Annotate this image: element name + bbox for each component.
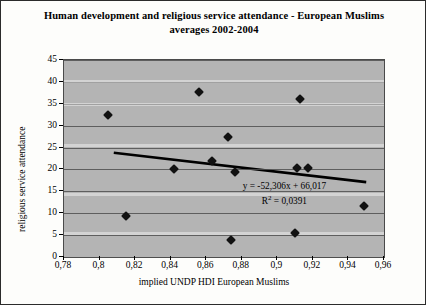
y-tick-label: 25 bbox=[31, 142, 57, 152]
y-tick-mark bbox=[59, 103, 63, 104]
x-tick-label: 0,84 bbox=[153, 260, 187, 270]
x-tick-label: 0,78 bbox=[46, 260, 80, 270]
x-tick-label: 0,8 bbox=[82, 260, 116, 270]
trendline-equation: y = -52,306x + 66,017 bbox=[219, 180, 349, 193]
y-tick-mark bbox=[59, 190, 63, 191]
y-gridline bbox=[64, 126, 384, 127]
r-value: = 0,0391 bbox=[272, 196, 307, 206]
y-gridline bbox=[64, 257, 384, 258]
y-tick-label: 20 bbox=[31, 163, 57, 173]
y-tick-label: 5 bbox=[31, 229, 57, 239]
x-tick-mark bbox=[63, 256, 64, 260]
y-tick-mark bbox=[59, 234, 63, 235]
y-tick-label: 10 bbox=[31, 207, 57, 217]
x-tick-label: 0,82 bbox=[117, 260, 151, 270]
x-tick-label: 0,86 bbox=[188, 260, 222, 270]
y-gridline bbox=[64, 169, 384, 170]
y-gridline bbox=[64, 148, 384, 149]
x-tick-mark bbox=[99, 256, 100, 260]
x-tick-mark bbox=[134, 256, 135, 260]
scan-band bbox=[64, 80, 384, 83]
x-tick-mark bbox=[312, 256, 313, 260]
y-gridline bbox=[64, 213, 384, 214]
trendline bbox=[64, 60, 384, 257]
y-tick-mark bbox=[59, 125, 63, 126]
x-tick-label: 0,92 bbox=[295, 260, 329, 270]
chart-title: Human development and religious service … bbox=[1, 9, 426, 37]
scan-band bbox=[64, 232, 384, 235]
x-tick-mark bbox=[241, 256, 242, 260]
plot-area bbox=[63, 59, 385, 258]
y-tick-label: 30 bbox=[31, 120, 57, 130]
chart-title-line-1: Human development and religious service … bbox=[1, 9, 426, 23]
x-tick-mark bbox=[205, 256, 206, 260]
x-tick-mark bbox=[170, 256, 171, 260]
x-axis-title: implied UNDP HDI European Muslims bbox=[1, 277, 426, 287]
y-tick-label: 35 bbox=[31, 98, 57, 108]
chart-title-line-2: averages 2002-2004 bbox=[1, 23, 426, 37]
x-tick-label: 0,9 bbox=[259, 260, 293, 270]
x-tick-mark bbox=[383, 256, 384, 260]
y-tick-mark bbox=[59, 168, 63, 169]
y-axis-title: religious service attendance bbox=[17, 126, 27, 232]
x-tick-label: 0,88 bbox=[224, 260, 258, 270]
y-tick-mark bbox=[59, 59, 63, 60]
y-tick-label: 15 bbox=[31, 185, 57, 195]
scan-band bbox=[64, 103, 384, 106]
x-tick-label: 0,96 bbox=[366, 260, 400, 270]
chart-figure: Human development and religious service … bbox=[0, 0, 426, 305]
x-tick-mark bbox=[276, 256, 277, 260]
y-tick-label: 45 bbox=[31, 54, 57, 64]
trendline-equation-box: y = -52,306x + 66,017 R2 = 0,0391 bbox=[219, 180, 349, 208]
x-tick-label: 0,94 bbox=[330, 260, 364, 270]
y-tick-mark bbox=[59, 212, 63, 213]
y-gridline bbox=[64, 60, 384, 61]
y-tick-mark bbox=[59, 147, 63, 148]
x-tick-mark bbox=[347, 256, 348, 260]
scan-band bbox=[64, 144, 384, 147]
y-tick-label: 40 bbox=[31, 76, 57, 86]
y-tick-mark bbox=[59, 81, 63, 82]
trendline-r-squared: R2 = 0,0391 bbox=[219, 192, 349, 208]
